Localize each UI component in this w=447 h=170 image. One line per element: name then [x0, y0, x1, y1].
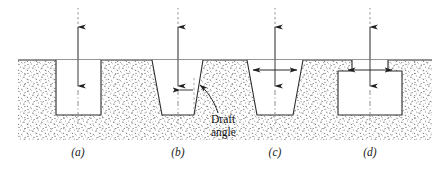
caption-d: (d) — [350, 146, 390, 158]
draft-angle-line-2: angle — [211, 126, 236, 139]
draft-angle-label: Draft angle — [211, 113, 236, 138]
draft-angle-line-1: Draft — [211, 113, 236, 126]
cavity-c — [247, 8, 303, 124]
caption-b: (b) — [158, 146, 198, 158]
caption-c: (c) — [255, 146, 295, 158]
figure-canvas — [0, 0, 447, 170]
mold-cavity-figure: Draft angle (a) (b) (c) (d) — [0, 0, 447, 170]
caption-a: (a) — [58, 146, 98, 158]
cavity-a — [56, 8, 101, 124]
